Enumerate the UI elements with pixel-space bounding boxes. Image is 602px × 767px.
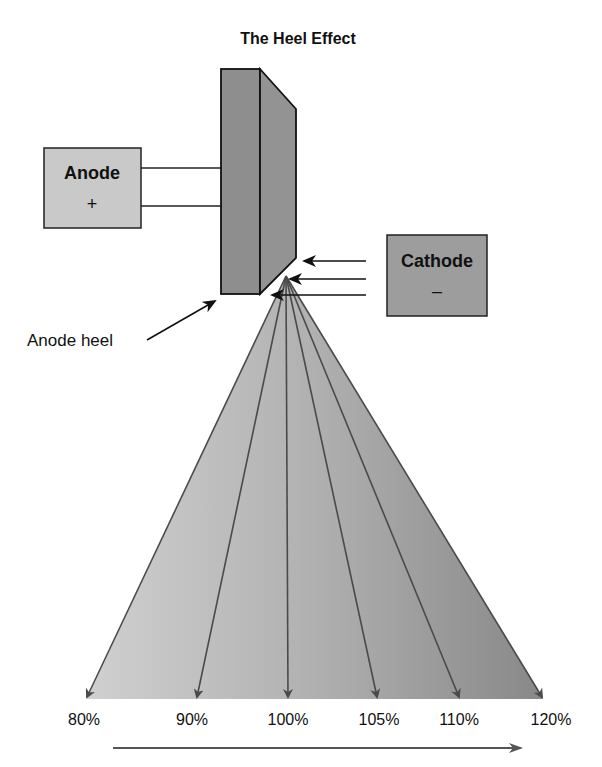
cathode-sign: – bbox=[432, 281, 442, 301]
intensity-label: 90% bbox=[176, 711, 208, 728]
xray-beam bbox=[87, 276, 543, 699]
anode-label: Anode bbox=[64, 163, 120, 183]
intensity-label: 100% bbox=[268, 711, 309, 728]
anode-box: Anode + bbox=[44, 148, 141, 228]
cathode-label: Cathode bbox=[401, 251, 473, 271]
heel-effect-diagram: The Heel Effect Anode + Cathode – Anode … bbox=[0, 0, 602, 767]
anode-heel-pointer-icon bbox=[147, 301, 215, 340]
intensity-label: 120% bbox=[531, 711, 572, 728]
intensity-labels: 80% 90% 100% 105% 110% 120% bbox=[68, 711, 571, 728]
cathode-box: Cathode – bbox=[387, 235, 487, 316]
diagram-title: The Heel Effect bbox=[240, 30, 356, 47]
intensity-label: 105% bbox=[359, 711, 400, 728]
anode-target-block bbox=[221, 69, 296, 294]
intensity-label: 110% bbox=[439, 711, 479, 728]
anode-sign: + bbox=[87, 194, 98, 214]
anode-heel-label: Anode heel bbox=[27, 331, 113, 350]
intensity-label: 80% bbox=[68, 711, 100, 728]
